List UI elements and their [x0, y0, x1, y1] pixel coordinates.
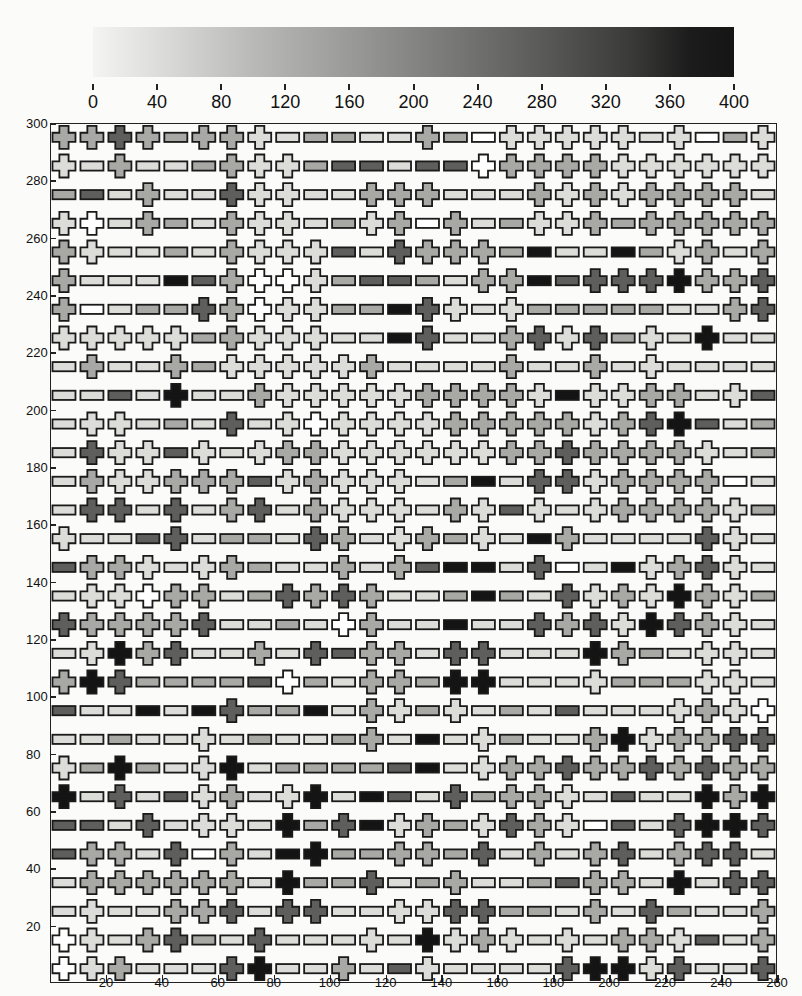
bar-glyph: [248, 419, 271, 428]
cross-glyph: [108, 556, 131, 579]
bar-glyph: [220, 391, 243, 400]
cross-glyph: [360, 441, 383, 464]
cross-glyph: [108, 871, 131, 894]
cross-glyph: [528, 470, 551, 493]
cross-glyph: [304, 527, 327, 550]
bar-glyph: [416, 563, 439, 572]
cross-glyph: [52, 757, 75, 780]
cross-glyph: [192, 900, 215, 923]
bar-glyph: [388, 792, 411, 801]
cross-glyph: [444, 441, 467, 464]
cross-glyph: [360, 499, 383, 522]
bar-glyph: [248, 534, 271, 543]
cross-glyph: [136, 642, 159, 665]
cross-glyph: [640, 585, 663, 608]
cross-glyph: [640, 613, 663, 636]
x-tick-label: 200: [598, 975, 620, 990]
cross-glyph: [668, 126, 691, 149]
bar-glyph: [360, 964, 383, 973]
bar-glyph: [192, 849, 215, 858]
cross-glyph: [640, 728, 663, 751]
bar-glyph: [640, 849, 663, 858]
bar-glyph: [52, 448, 75, 457]
bar-glyph: [444, 161, 467, 170]
cross-glyph: [556, 212, 579, 235]
cross-glyph: [696, 785, 719, 808]
bar-glyph: [444, 133, 467, 142]
bar-glyph: [584, 706, 607, 715]
cross-glyph: [444, 871, 467, 894]
x-tick-label: 40: [155, 975, 169, 990]
cross-glyph: [612, 757, 635, 780]
cross-glyph: [304, 441, 327, 464]
y-tick-label: 280: [26, 173, 48, 188]
cross-glyph: [304, 642, 327, 665]
bar-glyph: [444, 591, 467, 600]
bar-glyph: [416, 477, 439, 486]
cross-glyph: [360, 470, 383, 493]
bar-glyph: [80, 305, 103, 314]
cross-glyph: [388, 814, 411, 837]
cross-glyph: [360, 413, 383, 436]
bar-glyph: [640, 649, 663, 658]
cross-glyph: [696, 155, 719, 178]
x-tick-label: 100: [319, 975, 341, 990]
cross-glyph: [360, 699, 383, 722]
cross-glyph: [136, 871, 159, 894]
cross-glyph: [640, 441, 663, 464]
y-tick-label: 180: [26, 460, 48, 475]
colorbar-tick-label: 80: [211, 92, 231, 113]
cross-glyph: [136, 556, 159, 579]
cross-glyph: [388, 212, 411, 235]
bar-glyph: [332, 935, 355, 944]
cross-glyph: [332, 814, 355, 837]
bar-glyph: [164, 190, 187, 199]
bar-glyph: [472, 190, 495, 199]
bar-glyph: [752, 448, 775, 457]
bar-glyph: [248, 591, 271, 600]
cross-glyph: [416, 413, 439, 436]
cross-glyph: [192, 126, 215, 149]
cross-glyph: [528, 556, 551, 579]
bar-glyph: [752, 620, 775, 629]
cross-glyph: [388, 699, 411, 722]
bar-glyph: [388, 133, 411, 142]
bar-glyph: [640, 133, 663, 142]
bar-glyph: [304, 964, 327, 973]
bar-glyph: [696, 133, 719, 142]
cross-glyph: [360, 671, 383, 694]
bar-glyph: [164, 247, 187, 256]
bar-glyph: [556, 276, 579, 285]
bar-glyph: [640, 792, 663, 801]
y-tick-label: 200: [26, 402, 48, 417]
bar-glyph: [416, 763, 439, 772]
bar-glyph: [164, 448, 187, 457]
x-tick-label: 60: [211, 975, 225, 990]
cross-glyph: [752, 298, 775, 321]
cross-glyph: [724, 699, 747, 722]
bar-glyph: [584, 821, 607, 830]
bar-glyph: [332, 878, 355, 887]
cross-glyph: [332, 470, 355, 493]
cross-glyph: [276, 384, 299, 407]
cross-glyph: [220, 871, 243, 894]
cross-glyph: [52, 298, 75, 321]
cross-glyph: [360, 183, 383, 206]
cross-glyph: [724, 499, 747, 522]
cross-glyph: [612, 585, 635, 608]
colorbar-tick-label: 400: [719, 92, 749, 113]
cross-glyph: [584, 212, 607, 235]
cross-glyph: [80, 585, 103, 608]
bar-glyph: [360, 333, 383, 342]
cross-glyph: [724, 642, 747, 665]
bar-glyph: [248, 821, 271, 830]
cross-glyph: [472, 814, 495, 837]
bar-glyph: [220, 620, 243, 629]
cross-glyph: [80, 642, 103, 665]
cross-glyph: [416, 527, 439, 550]
bar-glyph: [192, 391, 215, 400]
cross-glyph: [192, 728, 215, 751]
bar-glyph: [220, 735, 243, 744]
bar-glyph: [416, 161, 439, 170]
cross-glyph: [640, 212, 663, 235]
